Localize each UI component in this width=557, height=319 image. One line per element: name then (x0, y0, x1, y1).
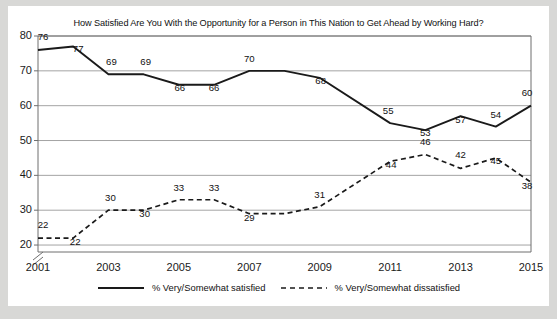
data-point-label: 60 (516, 87, 538, 98)
legend-label: % Very/Somewhat dissatisfied (335, 282, 461, 293)
x-axis-tick-label: 2013 (439, 261, 483, 273)
data-point-label: 30 (134, 208, 156, 219)
data-point-label: 54 (485, 109, 507, 120)
y-axis-tick-label: 50 (6, 134, 32, 146)
y-axis-tick-label: 40 (6, 168, 32, 180)
y-axis-tick-label: 70 (6, 64, 32, 76)
data-point-label: 69 (100, 56, 122, 67)
x-axis-tick-label: 2015 (509, 261, 553, 273)
data-point-label: 42 (450, 149, 472, 160)
data-point-label: 29 (238, 212, 260, 223)
data-point-label: 69 (135, 56, 157, 67)
data-point-label: 57 (450, 114, 472, 125)
legend-entry-2[interactable]: % Very/Somewhat dissatisfied (280, 282, 461, 293)
data-point-label: 38 (516, 180, 538, 191)
data-point-label: 22 (32, 219, 54, 230)
y-axis-tick-label: 60 (6, 99, 32, 111)
y-axis-tick-label: 80 (6, 29, 32, 41)
data-point-label: 33 (168, 182, 190, 193)
data-point-label: 33 (203, 182, 225, 193)
data-point-label: 44 (380, 159, 402, 170)
data-point-label: 55 (377, 105, 399, 116)
chart-figure: How Satisfied Are You With the Opportuni… (8, 6, 549, 306)
data-point-label: 46 (414, 136, 436, 147)
legend-entry-1[interactable]: % Very/Somewhat satisfied (97, 282, 266, 293)
y-axis-tick-label: 20 (6, 238, 32, 250)
data-point-label: 30 (99, 192, 121, 203)
data-point-label: 76 (32, 31, 54, 42)
plot-background (38, 36, 531, 252)
data-point-label: 22 (64, 236, 86, 247)
chart-legend: % Very/Somewhat satisfied% Very/Somewhat… (8, 282, 549, 293)
data-point-label: 70 (238, 53, 260, 64)
data-point-label: 66 (169, 82, 191, 93)
x-axis-tick-label: 2001 (16, 261, 60, 273)
data-point-label: 45 (485, 155, 507, 166)
data-point-label: 31 (309, 189, 331, 200)
x-axis-tick-label: 2003 (86, 261, 130, 273)
data-point-label: 68 (310, 75, 332, 86)
x-axis-tick-label: 2011 (368, 261, 412, 273)
legend-solid-line-icon (97, 284, 145, 292)
data-point-label: 66 (203, 82, 225, 93)
x-axis-tick-label: 2005 (157, 261, 201, 273)
data-point-label: 77 (67, 43, 89, 54)
x-axis-tick-label: 2007 (227, 261, 271, 273)
x-axis-tick-label: 2009 (298, 261, 342, 273)
y-axis-tick-label: 30 (6, 203, 32, 215)
legend-dashed-line-icon (280, 284, 328, 292)
legend-label: % Very/Somewhat satisfied (152, 282, 266, 293)
